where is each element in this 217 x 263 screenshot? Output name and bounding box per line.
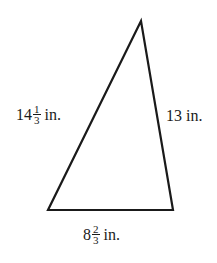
triangle-shape	[48, 21, 173, 210]
right-unit: in.	[186, 108, 202, 124]
bottom-unit: in.	[104, 227, 120, 243]
bottom-whole-number: 8	[83, 227, 91, 243]
bottom-fraction: 2 3	[92, 224, 100, 245]
left-whole-number: 14	[16, 107, 32, 123]
left-unit: in.	[45, 107, 61, 123]
side-label-right: 13 in.	[166, 108, 202, 124]
side-label-left: 14 1 3 in.	[16, 104, 61, 125]
left-fraction: 1 3	[33, 104, 41, 125]
left-denominator: 3	[33, 115, 41, 125]
right-whole-number: 13	[166, 108, 182, 124]
bottom-denominator: 3	[92, 235, 100, 245]
side-label-bottom: 8 2 3 in.	[83, 224, 120, 245]
